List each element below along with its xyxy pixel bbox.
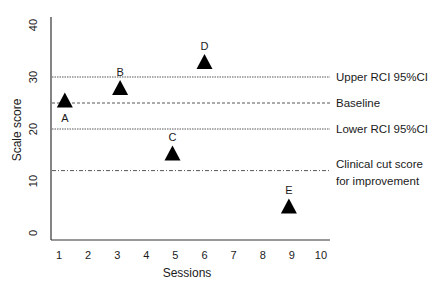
y-tick-label: 20 [27, 123, 39, 135]
x-tick-label: 2 [85, 249, 91, 261]
point-label: B [116, 66, 123, 78]
chart-canvas: 010203040 12345678910 ABCDE Upper RCI 95… [0, 0, 433, 292]
reference-line-label: Lower RCI 95%CI [336, 123, 428, 135]
point-label: A [61, 112, 69, 124]
x-tick-labels: 12345678910 [56, 249, 327, 261]
x-tick-label: 5 [172, 249, 178, 261]
y-tick-label: 40 [27, 19, 39, 31]
data-points: ABCDE [57, 40, 297, 214]
y-tick-label: 0 [27, 230, 39, 236]
point-label: D [201, 40, 209, 52]
point-label: E [285, 184, 292, 196]
reference-line-label: Upper RCI 95%CI [336, 71, 428, 83]
y-axis-label: Scale score [10, 98, 24, 161]
reference-line-labels: Upper RCI 95%CIBaselineLower RCI 95%CICl… [336, 71, 428, 187]
x-axis-label: Sessions [163, 266, 212, 280]
triangle-marker-icon [164, 145, 180, 160]
triangle-marker-icon [57, 92, 73, 107]
x-tick-label: 8 [260, 249, 266, 261]
x-tick-label: 9 [289, 249, 295, 261]
x-tick-label: 6 [201, 249, 207, 261]
x-tick-label: 3 [114, 249, 120, 261]
x-tick-label: 10 [315, 249, 327, 261]
x-tick-label: 7 [231, 249, 237, 261]
reference-line-label: Baseline [336, 97, 380, 109]
triangle-marker-icon [197, 54, 213, 69]
reference-line-label: for improvement [336, 175, 420, 187]
point-label: C [169, 131, 177, 143]
x-tick-label: 4 [143, 249, 149, 261]
reference-lines [52, 77, 330, 171]
scale-score-chart: 010203040 12345678910 ABCDE Upper RCI 95… [0, 0, 433, 292]
y-tick-label: 10 [27, 175, 39, 187]
x-tick-label: 1 [56, 249, 62, 261]
y-tick-label: 30 [27, 71, 39, 83]
triangle-marker-icon [281, 198, 297, 213]
reference-line-label: Clinical cut score [336, 158, 423, 170]
triangle-marker-icon [112, 80, 128, 95]
y-tick-labels: 010203040 [27, 19, 39, 236]
